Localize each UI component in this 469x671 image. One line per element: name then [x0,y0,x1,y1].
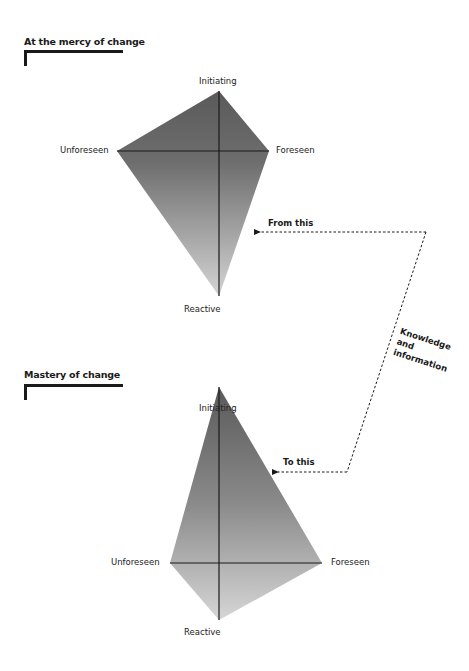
top-kite [117,91,269,296]
top-label-unforeseen: Unforeseen [60,145,109,155]
top-kite-shape [117,91,269,296]
bottom-label-unforeseen: Unforeseen [111,557,160,567]
top-label-reactive: Reactive [184,304,221,314]
bottom-label-reactive: Reactive [184,627,221,637]
to-this-label: To this [283,457,315,467]
bottom-kite [170,387,322,620]
bottom-label-foreseen: Foreseen [331,557,370,567]
from-this-label: From this [268,218,313,228]
top-label-initiating: Initiating [199,76,237,86]
bottom-kite-shape [170,387,322,620]
bottom-label-initiating: Initiating [199,403,237,413]
top-label-foreseen: Foreseen [276,145,315,155]
